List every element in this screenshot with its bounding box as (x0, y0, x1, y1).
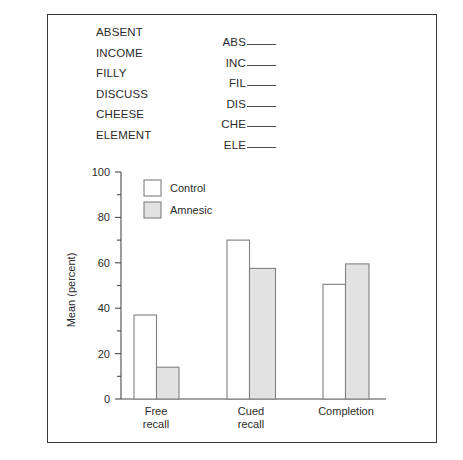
clipped-caption-strip (0, 450, 463, 460)
y-axis-title: Mean (percent) (65, 253, 77, 328)
chart-legend: Control Amnesic (144, 180, 213, 218)
cat-label-cued-recall-line2: recall (238, 418, 264, 430)
legend-swatch-amnesic (144, 202, 161, 218)
bar-group-free-recall (134, 315, 179, 399)
cat-label-cued-recall-line1: Cued (238, 405, 264, 417)
bar-control-free-recall (134, 315, 157, 399)
cat-label-free-recall-line1: Free (145, 405, 168, 417)
y-axis-tick-labels: 0 20 40 60 80 100 (92, 166, 110, 405)
bar-control-cued-recall (227, 240, 250, 399)
y-tick-label-20: 20 (98, 348, 110, 360)
cat-label-completion: Completion (318, 405, 374, 417)
bar-chart: 0 20 40 60 80 100 Mean (percent) Control… (48, 15, 438, 444)
bar-control-completion (323, 284, 346, 399)
bar-amnesic-free-recall (157, 367, 180, 399)
y-tick-label-80: 80 (98, 211, 110, 223)
figure-frame: ABSENT ABS INCOME INC FILLY FIL (47, 14, 437, 443)
y-tick-label-40: 40 (98, 302, 110, 314)
y-tick-label-60: 60 (98, 257, 110, 269)
bar-group-completion (323, 264, 369, 399)
bar-group-cued-recall (227, 240, 276, 399)
y-axis-ticks (115, 172, 121, 399)
legend-label-control: Control (170, 182, 205, 194)
bar-amnesic-cued-recall (250, 268, 276, 399)
y-tick-label-0: 0 (104, 393, 110, 405)
legend-label-amnesic: Amnesic (170, 204, 213, 216)
cat-label-free-recall-line2: recall (143, 418, 169, 430)
legend-swatch-control (144, 180, 161, 196)
chart-svg: 0 20 40 60 80 100 Mean (percent) Control… (48, 15, 438, 444)
bar-amnesic-completion (346, 264, 370, 399)
y-tick-label-100: 100 (92, 166, 110, 178)
x-axis-category-labels: Free recall Cued recall Completion (143, 405, 374, 430)
